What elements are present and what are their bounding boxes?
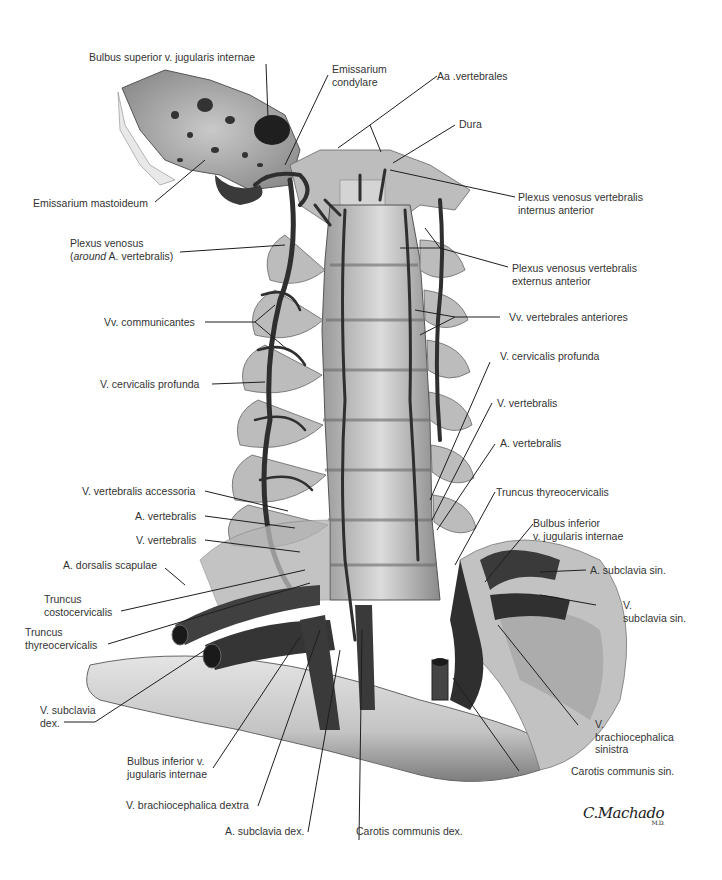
label-line-2: (around A. vertebralis) — [70, 250, 173, 263]
label-line-1: Plexus venosus — [70, 237, 173, 250]
label-line-1: Plexus venosus vertebralis — [518, 191, 643, 204]
artist-signature: C.Machado M.D. — [583, 804, 664, 826]
label-line-1: Bulbus inferior v. — [127, 755, 207, 768]
label-line-1: Truncus — [25, 626, 97, 639]
label-line-1: V. — [595, 718, 674, 731]
label-plexus-venosus-vertebralis-internus-anterior: Plexus venosus vertebralis internus ante… — [518, 191, 643, 216]
label-v-brachiocephalica-dextra: V. brachiocephalica dextra — [126, 799, 249, 812]
label-line-1: Emissarium — [332, 63, 387, 76]
label-line-1: Plexus venosus vertebralis — [512, 262, 637, 275]
label-v-subclavia-dex: V. subclavia dex. — [40, 704, 96, 729]
label-bulbus-superior-v-jugularis-internae: Bulbus superior v. jugularis internae — [89, 51, 255, 64]
label-plexus-venosus-vertebralis-externus-anterior: Plexus venosus vertebralis externus ante… — [512, 262, 637, 287]
label-line-2: internus anterior — [518, 204, 643, 217]
label-line-2: dex. — [40, 717, 96, 730]
label-v-vertebralis-accessoria: V. vertebralis accessoria — [82, 485, 195, 498]
label-carotis-communis-sin: Carotis communis sin. — [571, 765, 674, 778]
label-line-2: thyreocervicalis — [25, 639, 97, 652]
label-line-2: jugularis internae — [127, 768, 207, 781]
label-dura: Dura — [459, 118, 482, 131]
label-emissarium-mastoideum: Emissarium mastoideum — [33, 197, 148, 210]
label-v-cervicalis-profunda-left: V. cervicalis profunda — [100, 378, 199, 391]
label-v-brachiocephalica-sinistra: V. brachiocephalica sinistra — [595, 718, 674, 756]
label-a-vertebralis-right: A. vertebralis — [500, 437, 561, 450]
label-line-1: Bulbus inferior — [533, 517, 623, 530]
label-v-cervicalis-profunda-right: V. cervicalis profunda — [500, 350, 599, 363]
label-aa-vertebrales: Aa .vertebrales — [437, 70, 508, 83]
label-truncus-thyreocervicalis-right: Truncus thyreocervicalis — [496, 486, 609, 499]
label-line-2: externus anterior — [512, 275, 637, 288]
label-bulbus-inferior-v-jugularis-internae-right: Bulbus inferior v. jugularis internae — [533, 517, 623, 542]
label-a-subclavia-sin: A. subclavia sin. — [590, 564, 666, 577]
label-line-1: Truncus — [44, 593, 112, 606]
label-carotis-communis-dex: Carotis communis dex. — [356, 825, 463, 838]
label-truncus-thyreocervicalis-left: Truncus thyreocervicalis — [25, 626, 97, 651]
label-emissarium-condylare: Emissarium condylare — [332, 63, 387, 88]
label-line-2: subclavia sin. — [623, 612, 686, 625]
label-a-subclavia-dex: A. subclavia dex. — [225, 825, 304, 838]
label-line-1: V. — [623, 599, 686, 612]
label-vv-communicantes: Vv. communicantes — [104, 316, 195, 329]
label-v-vertebralis-left: V. vertebralis — [136, 534, 196, 547]
label-a-vertebralis-left: A. vertebralis — [135, 510, 196, 523]
label-line-2: brachiocephalica — [595, 731, 674, 744]
label-truncus-costocervicalis: Truncus costocervicalis — [44, 593, 112, 618]
label-v-vertebralis-right: V. vertebralis — [497, 397, 557, 410]
label-line-2: condylare — [332, 76, 387, 89]
label-plexus-venosus-around-a-vertebralis: Plexus venosus (around A. vertebralis) — [70, 237, 173, 262]
label-vv-vertebrales-anteriores: Vv. vertebrales anteriores — [509, 311, 628, 324]
label-line-3: sinistra — [595, 743, 674, 756]
label-line-1: V. subclavia — [40, 704, 96, 717]
label-line-2: costocervicalis — [44, 606, 112, 619]
skull-base-fragment — [118, 70, 300, 205]
label-a-dorsalis-scapulae: A. dorsalis scapulae — [63, 559, 157, 572]
label-v-subclavia-sin: V. subclavia sin. — [623, 599, 686, 624]
label-bulbus-inferior-v-jugularis-internae-left: Bulbus inferior v. jugularis internae — [127, 755, 207, 780]
label-line-2: v. jugularis internae — [533, 530, 623, 543]
